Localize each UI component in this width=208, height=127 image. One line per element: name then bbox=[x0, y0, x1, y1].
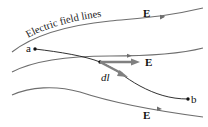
point-b-label: b bbox=[191, 93, 197, 105]
e-label-middle: E bbox=[145, 56, 152, 68]
electric-field-diagram: Electric field lines E E E a b dl bbox=[0, 0, 208, 127]
diagram-canvas: Electric field lines E E E a b dl bbox=[0, 0, 208, 127]
dl-label: dl bbox=[101, 71, 110, 83]
integration-path bbox=[33, 47, 189, 100]
point-a-label: a bbox=[26, 42, 31, 54]
e-label-top: E bbox=[143, 7, 150, 19]
point-b-dot bbox=[186, 97, 189, 100]
e-label-bottom: E bbox=[143, 109, 150, 121]
field-arrow-icon bbox=[127, 54, 132, 58]
point-a-dot bbox=[33, 47, 36, 50]
e-vector-arrowhead-icon bbox=[131, 59, 140, 66]
field-line-middle bbox=[12, 48, 203, 72]
field-line-bottom bbox=[12, 88, 203, 117]
